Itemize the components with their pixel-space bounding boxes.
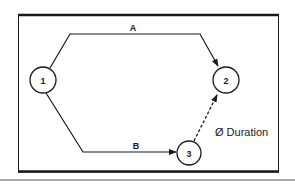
node-3-label: 3: [186, 149, 191, 159]
edge-a-label: A: [130, 23, 137, 33]
edge-b: B: [46, 93, 176, 152]
edge-a: A: [50, 23, 218, 68]
zero-duration-annotation: Ø Duration: [215, 126, 268, 138]
node-1-label: 1: [40, 76, 45, 86]
network-diagram: A B 1 2 3 Ø Duration: [0, 0, 295, 187]
node-2-label: 2: [223, 76, 228, 86]
diagram-frame: [18, 15, 279, 172]
edge-b-label: B: [133, 141, 140, 151]
node-1: 1: [30, 67, 56, 93]
edge-dummy-dashed: [194, 95, 217, 141]
node-2: 2: [213, 67, 239, 93]
node-3: 3: [177, 141, 201, 165]
